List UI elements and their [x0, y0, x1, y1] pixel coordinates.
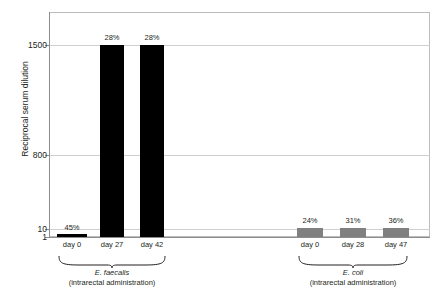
group-species-right: E. coli [288, 268, 418, 278]
bar-value-ef-day0: 45% [55, 224, 89, 232]
group-brace-right [297, 256, 409, 268]
group-route-left: (intrarectal administration) [47, 278, 177, 288]
y-axis-title: Reciprocal serum dilution [20, 39, 30, 179]
brace-left-icon [57, 256, 167, 268]
group-route-right: (intrarectal administration) [288, 278, 418, 288]
bar-value-ef-day27: 28% [95, 34, 129, 42]
axis-baseline [49, 237, 430, 238]
bar-ec-day28 [340, 228, 366, 237]
x-tick-label-ef-day42: day 42 [132, 240, 172, 249]
x-tick-label-ef-day0: day 0 [52, 240, 92, 249]
brace-right-icon [297, 256, 409, 268]
x-tick-label-ec-day0: day 0 [290, 240, 330, 249]
bar-ec-day47 [383, 228, 409, 237]
bar-ef-day0 [57, 234, 87, 237]
bar-ec-day0 [297, 228, 323, 237]
bar-value-ec-day28: 31% [336, 217, 370, 225]
bar-value-ec-day47: 36% [379, 217, 413, 225]
bar-value-ef-day42: 28% [135, 34, 169, 42]
group-caption-left: E. faecalis (intrarectal administration) [47, 268, 177, 288]
bar-chart: 1500 800 10 1 Reciprocal serum dilution … [0, 0, 442, 297]
group-brace-left [57, 256, 167, 268]
group-species-left: E. faecalis [47, 268, 177, 278]
bar-ef-day42 [140, 45, 164, 237]
x-tick-label-ec-day47: day 47 [376, 240, 416, 249]
bar-ef-day27 [100, 45, 124, 237]
x-tick-label-ef-day27: day 27 [92, 240, 132, 249]
bar-value-ec-day0: 24% [293, 217, 327, 225]
x-tick-label-ec-day28: day 28 [333, 240, 373, 249]
y-tick-label-1: 1 [7, 233, 47, 242]
group-caption-right: E. coli (intrarectal administration) [288, 268, 418, 288]
y-axis-line [49, 12, 50, 238]
